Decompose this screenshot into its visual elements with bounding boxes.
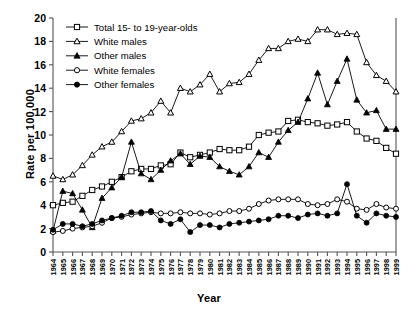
data-point [384,205,389,210]
data-point [60,200,65,205]
data-point [295,36,301,41]
chart-figure: Rate per 100,000 Year 024681012141618201… [0,0,418,314]
legend-label: White males [94,36,147,47]
data-point [237,220,242,225]
x-tick-label: 1977 [176,259,185,275]
data-point [374,211,379,216]
x-tick-label: 1994 [343,258,352,275]
data-point [158,98,164,103]
data-point [70,221,75,226]
x-tick-label: 1982 [225,259,234,275]
y-tick-label: 6 [40,176,46,188]
x-tick-label: 1967 [78,259,87,275]
x-tick-label: 1987 [274,259,283,275]
y-tick-label: 20 [34,12,46,24]
data-point [286,213,291,218]
data-point [286,118,291,123]
data-point [158,218,163,223]
data-point [256,132,261,137]
data-point [198,211,203,216]
data-point [344,56,350,61]
data-point [305,212,310,217]
x-tick-label: 1985 [255,259,264,275]
data-point [60,188,66,193]
data-point [217,211,222,216]
data-point [315,70,321,75]
y-tick-label: 0 [40,246,46,258]
data-point [51,227,56,232]
x-tick-label: 1981 [216,259,225,275]
data-point [334,78,340,83]
y-tick-label: 8 [40,152,46,164]
data-point [325,123,330,128]
data-point [80,193,85,198]
data-point [227,148,232,153]
data-point [276,197,281,202]
legend-label: Other females [94,79,154,90]
data-point [374,202,379,207]
data-point [74,24,79,29]
legend-label: White females [94,65,155,76]
data-point [354,97,360,102]
data-point [324,101,330,106]
data-point [246,144,251,149]
data-point [227,209,232,214]
data-point [217,146,222,151]
x-tick-label: 1997 [372,259,381,275]
series-5 [51,182,399,235]
x-tick-label: 1966 [69,259,78,275]
data-point [335,122,340,127]
data-point [188,211,193,216]
data-point [364,136,369,141]
x-tick-label: 1988 [284,259,293,275]
data-point [70,199,75,204]
x-tick-label: 1980 [206,259,215,275]
data-point [384,213,389,218]
data-point [158,211,163,216]
data-point [237,209,242,214]
data-point [364,59,370,64]
x-tick-label: 1965 [59,259,68,275]
data-point [393,151,398,156]
data-point [178,217,183,222]
data-point [384,145,389,150]
x-tick-label: 1992 [323,259,332,275]
data-point [217,225,222,230]
x-tick-label: 1993 [333,259,342,275]
data-point [207,223,212,228]
data-point [374,138,379,143]
x-tick-label: 1995 [353,259,362,275]
data-point [109,216,114,221]
x-tick-label: 1991 [314,259,323,275]
data-point [256,149,262,154]
data-point [50,173,56,178]
data-point [335,211,340,216]
data-point [364,220,369,225]
data-point [276,213,281,218]
data-point [119,213,124,218]
data-point [74,82,79,87]
x-tick-label: 1986 [265,259,274,275]
x-tick-label: 1973 [137,259,146,275]
data-point [188,230,193,235]
data-point [364,207,369,212]
data-point [266,130,271,135]
data-point [74,53,80,59]
series-4 [51,197,399,235]
data-point [344,120,349,125]
data-point [168,221,173,226]
data-point [325,213,330,218]
legend-label: Other males [94,50,146,61]
series-1 [50,117,398,208]
data-point [227,221,232,226]
x-tick-label: 1972 [127,259,136,275]
legend: Total 15- to 19-year-oldsWhite malesOthe… [66,22,198,91]
data-point [305,120,310,125]
data-point [60,228,65,233]
data-point [109,179,114,184]
data-point [345,199,350,204]
data-point [394,206,399,211]
data-point [90,187,95,192]
y-tick-label: 12 [34,106,46,118]
data-point [188,155,193,160]
